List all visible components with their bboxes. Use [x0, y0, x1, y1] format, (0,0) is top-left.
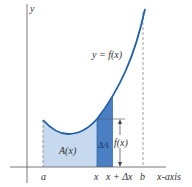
- height-label: f(x): [114, 137, 129, 149]
- arrow-up-icon: [118, 119, 122, 124]
- y-axis-label: y: [29, 3, 35, 14]
- curve-fx: [43, 9, 145, 134]
- strip-label: ΔA: [97, 140, 109, 150]
- area-label: A(x): [58, 145, 77, 157]
- tick-label-a: a: [41, 171, 46, 182]
- arrow-down-icon: [118, 162, 122, 167]
- tick-label-x: x: [93, 171, 99, 182]
- curve-label: y = f(x): [91, 49, 123, 61]
- tick-label-x-plus-dx: x + Δx: [105, 171, 133, 182]
- area-under-curve-diagram: y y = f(x) A(x) ΔA f(x) a x x + Δx b x-a…: [0, 0, 192, 187]
- x-axis-label: x-axis: [156, 171, 181, 182]
- tick-label-b: b: [140, 171, 145, 182]
